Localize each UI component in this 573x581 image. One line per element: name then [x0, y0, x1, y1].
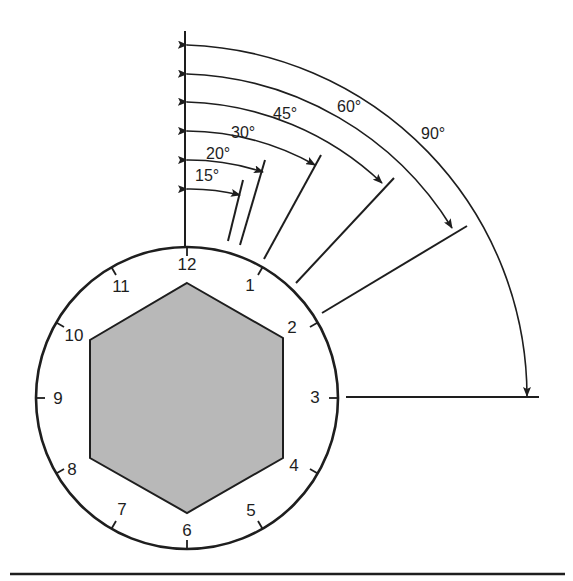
clock-tick	[56, 469, 64, 474]
angle-diagram: 15° 20° 30° 45° 60° 90° 12 1 2 3 4 5 6 7…	[0, 0, 573, 581]
clock-number-9: 9	[53, 389, 62, 408]
clock-number-12: 12	[178, 255, 197, 274]
radial-line-15	[228, 180, 243, 241]
clock-number-11: 11	[112, 277, 130, 296]
clock-tick	[112, 521, 117, 529]
angle-label-20: 20°	[206, 145, 230, 162]
clock-tick	[310, 323, 318, 328]
angle-label-15: 15°	[195, 167, 219, 184]
radial-line-20	[240, 160, 265, 245]
clock-number-10: 10	[65, 326, 84, 345]
clock-number-7: 7	[117, 500, 126, 519]
clock-tick	[258, 521, 263, 529]
angle-label-45: 45°	[273, 105, 297, 122]
clock-tick	[112, 267, 117, 275]
clock-tick	[56, 323, 64, 328]
clock-number-8: 8	[67, 460, 76, 479]
angle-label-90: 90°	[421, 125, 445, 142]
radial-line-30	[264, 155, 321, 259]
clock-number-5: 5	[246, 501, 255, 520]
clock-number-4: 4	[289, 456, 298, 475]
clock-number-6: 6	[182, 521, 191, 540]
angle-label-60: 60°	[337, 98, 361, 115]
clock-tick	[258, 267, 263, 275]
clock-number-1: 1	[245, 276, 254, 295]
clock-number-3: 3	[310, 388, 319, 407]
angle-label-30: 30°	[231, 124, 255, 141]
radial-line-45	[296, 178, 394, 283]
radial-line-60	[322, 226, 467, 313]
hexagon-nut	[90, 283, 283, 513]
arc-15	[187, 189, 240, 195]
clock-number-2: 2	[287, 318, 296, 337]
clock-tick	[310, 469, 318, 474]
